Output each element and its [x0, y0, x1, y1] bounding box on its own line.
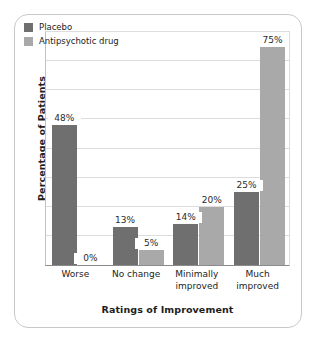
x-axis-tick-labels: WorseNo changeMinimallyimprovedMuchimpro… — [45, 268, 290, 302]
legend-swatch-icon — [24, 23, 33, 32]
x-tick-label: Worse — [45, 268, 106, 280]
legend-item-2[interactable]: Antipsychotic drug — [24, 35, 119, 47]
legend-swatch-icon — [24, 37, 33, 46]
legend-item-1[interactable]: Placebo — [24, 21, 119, 33]
figure-card: Percentage of Patients 48%0%13%5%14%20%2… — [14, 14, 302, 328]
bar-value-label: 25% — [230, 180, 263, 191]
x-axis-title: Ratings of Improvement — [45, 304, 290, 315]
plot-area: 48%0%13%5%14%20%25%75% — [45, 31, 290, 266]
bar-value-label: 20% — [195, 195, 228, 206]
bar-value-label: 13% — [109, 215, 142, 226]
bar[interactable] — [52, 125, 77, 265]
bar-group: 13%5% — [108, 32, 169, 265]
bar[interactable] — [260, 47, 285, 265]
bar-chart: Percentage of Patients 48%0%13%5%14%20%2… — [15, 15, 303, 329]
bar-group: 48%0% — [47, 32, 108, 265]
bar-value-label: 0% — [74, 253, 107, 264]
x-tick-label: Muchimproved — [227, 268, 288, 292]
bar[interactable] — [139, 250, 164, 265]
bar-group: 25%75% — [229, 32, 290, 265]
bar[interactable] — [173, 224, 198, 265]
bar-value-label: 14% — [169, 212, 202, 223]
bar-value-label: 48% — [48, 113, 81, 124]
chart-legend: PlaceboAntipsychotic drug — [24, 21, 119, 49]
x-tick-label: Minimallyimproved — [167, 268, 228, 292]
bar-group: 14%20% — [169, 32, 230, 265]
bar-value-label: 75% — [256, 35, 289, 46]
x-tick-label: No change — [106, 268, 167, 280]
bar[interactable] — [234, 192, 259, 265]
bar-value-label: 5% — [135, 238, 168, 249]
legend-label: Placebo — [39, 22, 72, 32]
bars-layer: 48%0%13%5%14%20%25%75% — [47, 32, 288, 265]
legend-label: Antipsychotic drug — [39, 36, 119, 46]
bar[interactable] — [199, 207, 224, 265]
